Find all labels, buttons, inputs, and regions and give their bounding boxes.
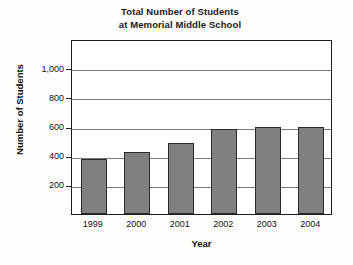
y-axis-tick-label: 800 (22, 94, 64, 103)
chart-title-line-1: Total Number of Students (60, 6, 300, 19)
bars-layer (72, 41, 331, 214)
x-axis-tick-label: 2004 (290, 219, 330, 229)
chart-title-line-2: at Memorial Middle School (60, 19, 300, 32)
bar-2002 (211, 129, 237, 214)
bar-2004 (298, 127, 324, 214)
plot-area (71, 40, 332, 215)
chart-title: Total Number of Students at Memorial Mid… (60, 6, 300, 31)
x-axis-tick-label: 2001 (160, 219, 200, 229)
x-axis-tick-label: 1999 (73, 219, 113, 229)
bar-1999 (81, 159, 107, 214)
x-axis-tick-label: 2000 (116, 219, 156, 229)
x-axis-tick-label: 2003 (247, 219, 287, 229)
y-axis-labels: 2004006008001,000 (16, 0, 64, 265)
y-axis-tick-label: 400 (22, 152, 64, 161)
bar-chart-figure: Total Number of Students at Memorial Mid… (0, 0, 353, 265)
x-axis-tick-label: 2002 (203, 219, 243, 229)
bar-2003 (255, 127, 281, 215)
bar-2001 (168, 143, 194, 215)
x-axis-title: Year (71, 238, 332, 249)
y-axis-tick-label: 1,000 (22, 65, 64, 74)
bar-2000 (124, 152, 150, 214)
y-axis-tick-label: 600 (22, 123, 64, 132)
y-axis-tick-label: 200 (22, 181, 64, 190)
